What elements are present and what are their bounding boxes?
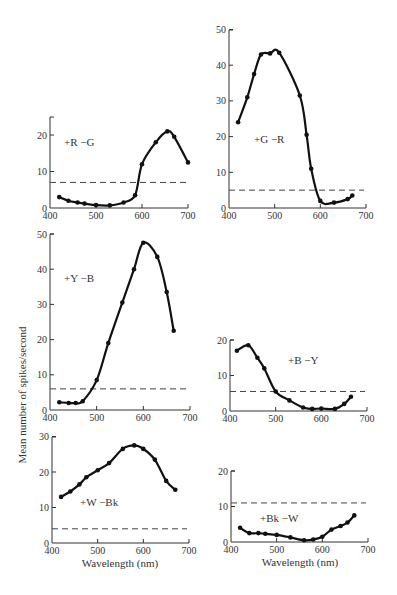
- data-point: [252, 72, 257, 77]
- data-point: [298, 93, 303, 98]
- data-point: [311, 537, 316, 542]
- y-tick-label: 40: [216, 60, 226, 71]
- data-point: [246, 343, 251, 348]
- data-point: [141, 241, 146, 246]
- x-axis-title-left: Wavelength (nm): [82, 557, 159, 570]
- x-tick-label: 400: [43, 210, 58, 221]
- x-tick-label: 700: [359, 210, 374, 221]
- data-point: [332, 200, 337, 205]
- data-point: [259, 52, 264, 57]
- data-point: [132, 443, 137, 448]
- data-point: [172, 135, 177, 140]
- data-point: [352, 513, 357, 518]
- data-point: [94, 203, 99, 208]
- data-point: [273, 389, 278, 394]
- y-tick-label: 10: [37, 166, 47, 177]
- x-tick-label: 500: [267, 210, 282, 221]
- data-point: [302, 538, 307, 543]
- response-curve: [61, 445, 175, 497]
- y-tick-label: 50: [216, 24, 226, 35]
- data-point: [345, 520, 350, 525]
- data-point: [75, 200, 80, 205]
- data-point: [73, 401, 78, 406]
- data-point: [164, 479, 169, 484]
- data-point: [342, 402, 347, 407]
- data-point: [301, 405, 306, 410]
- panel-gr: 01020304050400500600700+G −R: [216, 24, 374, 221]
- y-tick-label: 20: [216, 131, 226, 142]
- x-tick-label: 400: [222, 210, 237, 221]
- panel-label: +Y −B: [64, 272, 94, 284]
- data-point: [277, 50, 282, 55]
- x-tick-label: 600: [135, 210, 150, 221]
- data-point: [121, 200, 126, 205]
- data-point: [59, 495, 64, 500]
- data-point: [66, 401, 71, 406]
- x-tick-label: 600: [315, 544, 330, 555]
- y-tick-label: 10: [37, 369, 47, 380]
- data-point: [263, 532, 268, 537]
- panel-wbk: 0102030400500600700+W −Bk: [39, 431, 197, 556]
- data-point: [350, 193, 355, 198]
- chart-panels: 01020400500600700+R −G010203040504005006…: [37, 24, 376, 556]
- data-point: [141, 447, 146, 452]
- data-point: [140, 162, 145, 167]
- x-tick-label: 400: [223, 413, 238, 424]
- data-point: [310, 407, 315, 412]
- data-point: [338, 524, 343, 529]
- x-tick-label: 700: [182, 545, 197, 556]
- data-point: [171, 329, 176, 334]
- x-tick-label: 500: [89, 412, 104, 423]
- response-curve: [59, 242, 173, 403]
- panel-label: +W −Bk: [80, 496, 119, 508]
- data-point: [329, 527, 334, 532]
- panel-by: 01020400500600700+B −Y: [217, 335, 375, 425]
- y-tick-label: 30: [216, 95, 226, 106]
- data-point: [287, 398, 292, 403]
- x-tick-label: 400: [45, 545, 60, 556]
- data-point: [318, 199, 323, 204]
- y-tick-label: 20: [217, 335, 227, 346]
- data-point: [247, 531, 252, 536]
- data-point: [349, 395, 354, 400]
- data-point: [236, 120, 241, 125]
- x-tick-label: 600: [314, 413, 329, 424]
- data-point: [173, 488, 178, 493]
- data-point: [106, 341, 111, 346]
- data-point: [108, 203, 113, 208]
- data-point: [165, 129, 170, 134]
- data-point: [333, 407, 338, 412]
- data-point: [164, 290, 169, 295]
- data-point: [345, 197, 350, 202]
- data-point: [120, 300, 125, 305]
- panel-label: +Bk −W: [260, 512, 299, 524]
- data-point: [262, 366, 267, 371]
- data-point: [255, 356, 260, 361]
- data-point: [155, 255, 160, 260]
- data-point: [95, 468, 100, 473]
- y-tick-label: 10: [217, 370, 227, 381]
- data-point: [235, 348, 240, 353]
- x-tick-label: 500: [90, 545, 105, 556]
- panel-bkw: 01020400500600700+Bk −W: [218, 466, 376, 556]
- panel-label: +R −G: [64, 136, 94, 148]
- y-tick-label: 20: [39, 467, 49, 478]
- x-tick-label: 700: [181, 210, 196, 221]
- data-point: [132, 267, 137, 272]
- data-point: [68, 489, 73, 494]
- data-point: [256, 531, 261, 536]
- x-tick-label: 500: [268, 413, 283, 424]
- data-point: [57, 195, 62, 200]
- data-point: [66, 198, 71, 203]
- y-tick-label: 50: [37, 229, 47, 240]
- data-point: [82, 201, 87, 206]
- data-point: [80, 399, 85, 404]
- data-point: [268, 51, 273, 56]
- panel-label: +B −Y: [288, 354, 318, 366]
- data-point: [245, 95, 250, 100]
- panel-label: +G −R: [254, 133, 285, 145]
- y-tick-label: 40: [37, 264, 47, 275]
- data-point: [133, 193, 138, 198]
- data-point: [107, 461, 112, 466]
- y-tick-label: 10: [218, 501, 228, 512]
